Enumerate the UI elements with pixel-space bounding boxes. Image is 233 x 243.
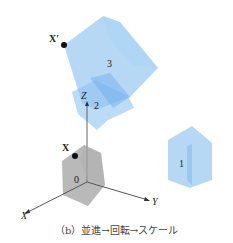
- x-axis-label: X: [21, 210, 27, 221]
- shape-3-label: 3: [107, 58, 112, 69]
- shape-0-label: 0: [74, 174, 79, 185]
- figure-caption: （b）並進→回転→スケール: [0, 222, 233, 237]
- point-x: [72, 153, 78, 159]
- y-axis-label: Y: [152, 196, 158, 207]
- diagram-canvas: [0, 0, 233, 243]
- point-x-label: X: [62, 142, 69, 153]
- point-x-prime: [61, 42, 67, 48]
- shape-2-label: 2: [94, 100, 99, 111]
- z-axis-label: Z: [81, 90, 87, 101]
- shape-1-label: 1: [179, 158, 184, 169]
- point-x-prime-label: X′: [49, 33, 59, 44]
